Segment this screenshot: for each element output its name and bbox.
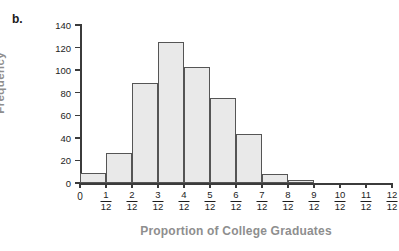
y-tick-mark [75,69,80,71]
x-tick-label: 312 [153,190,164,212]
y-tick-label: 100 [0,65,71,76]
x-tick-mark [391,183,393,188]
x-tick-mark [365,183,367,188]
y-tick-label: 80 [0,87,71,98]
x-tick-mark [105,183,107,188]
plot-area [80,25,392,183]
histogram-bar [132,83,158,183]
x-tick-label: 512 [205,190,216,212]
histogram-bar [288,180,314,183]
x-tick-mark [183,183,185,188]
x-tick-label: 812 [283,190,294,212]
x-axis-title: Proportion of College Graduates [80,224,392,238]
x-tick-label: 112 [101,190,112,212]
x-tick-label: 1012 [335,190,346,212]
x-tick-label: 612 [231,190,242,212]
histogram-bar [158,42,184,183]
x-tick-mark [209,183,211,188]
x-tick-label: 412 [179,190,190,212]
x-tick-mark [157,183,159,188]
y-tick-label: 120 [0,42,71,53]
y-tick-label: 60 [0,110,71,121]
histogram-bar [184,67,210,183]
x-tick-label: 212 [127,190,138,212]
y-axis-title: Frequency [0,52,6,114]
histogram-bar [210,98,236,183]
y-tick-mark [75,92,80,94]
y-tick-mark [75,47,80,49]
y-tick-mark [75,137,80,139]
x-tick-label: 1212 [387,190,398,212]
x-tick-mark [339,183,341,188]
x-tick-mark [261,183,263,188]
histogram-bar [106,153,132,183]
y-tick-label: 40 [0,132,71,143]
y-tick-label: 20 [0,155,71,166]
x-tick-label: 0 [77,190,83,202]
y-tick-label: 140 [0,20,71,31]
y-tick-mark [75,115,80,117]
y-tick-mark [75,160,80,162]
x-tick-label: 912 [309,190,320,212]
x-tick-mark [287,183,289,188]
chart-figure: b. Frequency 020406080100120140 01122123… [0,0,399,251]
x-tick-mark [131,183,133,188]
y-tick-mark [75,24,80,26]
x-tick-label: 1112 [361,190,372,212]
y-tick-label: 0 [0,178,71,189]
x-tick-mark [313,183,315,188]
histogram-bar [262,174,288,183]
x-tick-mark [79,183,81,188]
histogram-bar [80,173,106,183]
x-tick-mark [235,183,237,188]
x-tick-label: 712 [257,190,268,212]
histogram-bar [236,134,262,183]
